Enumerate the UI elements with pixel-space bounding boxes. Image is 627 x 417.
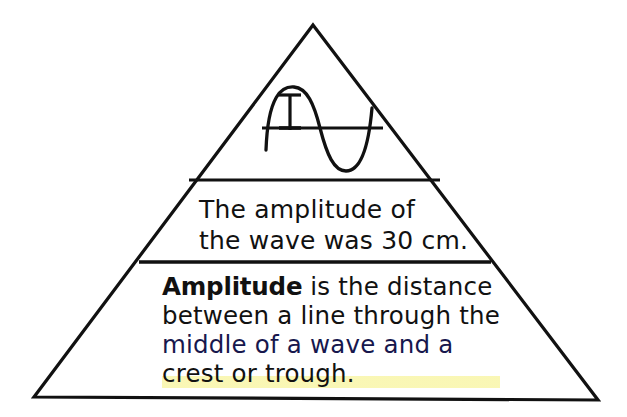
pyramid-graphics (0, 0, 627, 417)
pyramid-outline (34, 25, 598, 400)
pyramid-diagram-canvas: The amplitude of the wave was 30 cm. Amp… (0, 0, 627, 417)
